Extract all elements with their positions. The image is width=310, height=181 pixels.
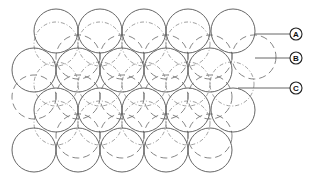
layer-b-circle (188, 114, 232, 158)
layer-b-circle (188, 35, 232, 79)
layer-a-circle (211, 9, 255, 53)
layer-b-circle (100, 35, 144, 79)
layer-a-circle (34, 9, 78, 53)
layer-b-circle (232, 35, 276, 79)
circle-packing-diagram: ABC (0, 0, 310, 181)
layer-a-circle (166, 9, 210, 53)
layer-b-circle (100, 114, 144, 158)
layer-a-circle (211, 88, 255, 132)
layer-b-circle (144, 114, 188, 158)
layer-a-circle (188, 128, 232, 172)
layer-a-circle (78, 9, 122, 53)
callout-labels: ABC (238, 28, 302, 94)
layer-b-circle (56, 35, 100, 79)
layer-b-long-dash-circles (12, 35, 276, 158)
layer-a-circle (144, 128, 188, 172)
layer-a-solid-circles (12, 9, 255, 172)
label-text-c: C (293, 84, 299, 93)
label-text-b: B (293, 54, 299, 63)
layer-a-circle (122, 9, 166, 53)
layer-a-circle (56, 128, 100, 172)
layer-a-circle (12, 48, 56, 92)
layer-c-dash-dot-circles (34, 22, 254, 145)
layer-b-circle (144, 35, 188, 79)
layer-a-circle (12, 128, 56, 172)
label-text-a: A (293, 30, 299, 39)
layer-a-circle (100, 128, 144, 172)
layer-b-circle (56, 114, 100, 158)
